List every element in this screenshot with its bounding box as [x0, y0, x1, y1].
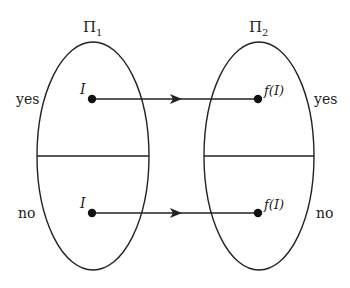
set-pi-1: Π1 yes no I I — [15, 18, 149, 270]
reduction-diagram: Π1 yes no I I Π2 yes no f(I) f(I) — [0, 0, 350, 288]
left-yes-label: yes — [15, 91, 39, 107]
right-set-title: Π2 — [249, 18, 268, 38]
bottom-image-label: f(I) — [263, 197, 284, 212]
bottom-mapping-arrow — [88, 208, 262, 218]
right-yes-label: yes — [313, 91, 337, 107]
top-instance-label: I — [79, 81, 86, 97]
bottom-instance-dot — [88, 209, 96, 217]
top-image-label: f(I) — [263, 83, 284, 98]
left-set-title: Π1 — [83, 18, 102, 38]
top-instance-dot — [88, 95, 96, 103]
bottom-instance-label: I — [79, 195, 86, 211]
bottom-image-dot — [254, 209, 262, 217]
right-no-label: no — [316, 205, 333, 221]
left-no-label: no — [18, 205, 35, 221]
top-mapping-arrow — [88, 94, 262, 104]
top-image-dot — [254, 95, 262, 103]
set-pi-2: Π2 yes no f(I) f(I) — [204, 18, 337, 270]
